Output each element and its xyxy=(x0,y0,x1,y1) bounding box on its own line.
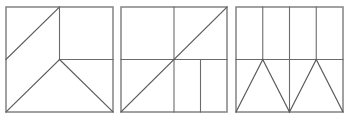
figures-root xyxy=(6,7,343,112)
square-three xyxy=(236,7,343,112)
triangle-left-side-up xyxy=(236,60,263,113)
triangle-right-side-up xyxy=(290,60,317,113)
triangle-right-side-down xyxy=(316,60,343,113)
diagonal-center-to-bottom-left xyxy=(6,60,60,113)
triangle-left-side-down xyxy=(263,60,290,113)
diagonal-center-to-bottom-right xyxy=(60,60,114,113)
diagonal-left-mid-to-top-center xyxy=(6,7,60,60)
square-two xyxy=(121,7,227,112)
figure-panel xyxy=(0,0,349,119)
square-one xyxy=(6,7,113,112)
geometry-figures-svg xyxy=(0,0,349,119)
